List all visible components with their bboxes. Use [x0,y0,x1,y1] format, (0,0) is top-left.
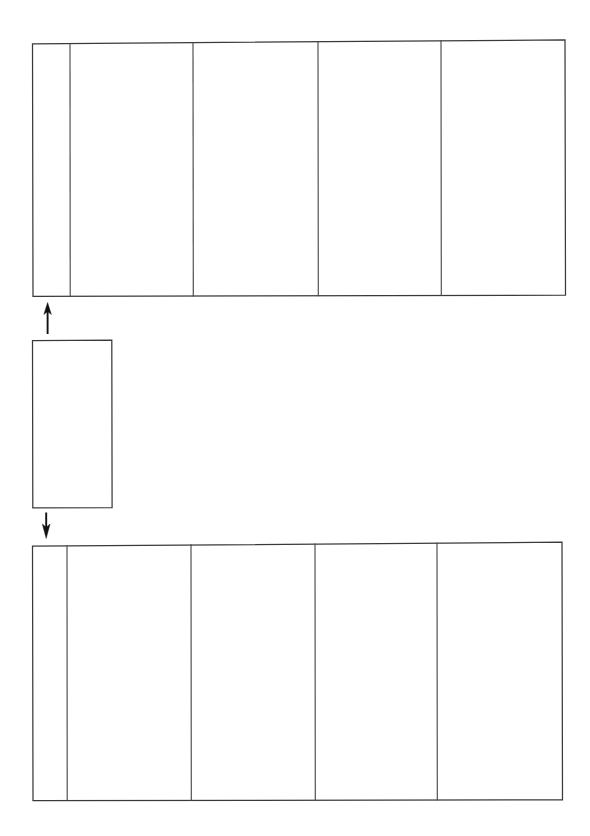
bottom-table-cell-r1c1[interactable] [33,546,67,799]
top-table[interactable] [33,40,566,296]
arrow-down-to-bottom-table[interactable] [42,513,50,539]
bottom-table-cell-r1c2[interactable] [67,545,191,799]
top-table-cell-r1c1[interactable] [33,44,70,295]
diagram-canvas [0,0,590,836]
arrow-up-to-top-table[interactable] [44,303,52,335]
bottom-table-cell-r1c4[interactable] [315,543,437,799]
bottom-table-cell-r1c3[interactable] [191,544,315,799]
top-table-cell-r1c5[interactable] [441,40,565,295]
middle-box-cell[interactable] [33,341,111,507]
middle-box[interactable] [33,340,113,508]
bottom-table[interactable] [33,542,563,801]
top-table-cell-r1c3[interactable] [193,42,318,295]
bottom-table-cell-r1c5[interactable] [437,542,562,799]
top-table-cell-r1c2[interactable] [70,43,193,295]
top-table-cell-r1c4[interactable] [318,41,441,295]
diagram-page [0,0,590,836]
